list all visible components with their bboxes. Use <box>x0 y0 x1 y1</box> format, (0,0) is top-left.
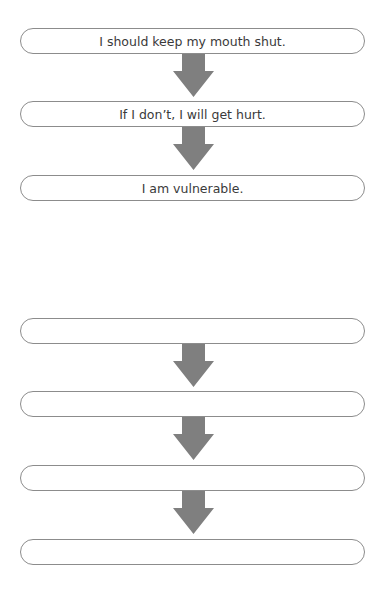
example-box-1: I should keep my mouth shut. <box>20 28 365 54</box>
blank-box-3[interactable] <box>20 465 365 491</box>
down-arrow-icon <box>172 127 215 173</box>
blank-box-4[interactable] <box>20 539 365 565</box>
down-arrow-icon <box>172 344 215 390</box>
example-box-2-text: If I don’t, I will get hurt. <box>119 107 266 122</box>
example-box-3: I am vulnerable. <box>20 175 365 201</box>
blank-box-1[interactable] <box>20 318 365 344</box>
blank-box-2[interactable] <box>20 391 365 417</box>
down-arrow-icon <box>172 54 215 100</box>
example-box-2: If I don’t, I will get hurt. <box>20 101 365 127</box>
example-box-3-text: I am vulnerable. <box>142 181 244 196</box>
down-arrow-icon <box>172 417 215 463</box>
down-arrow-icon <box>172 491 215 537</box>
example-box-1-text: I should keep my mouth shut. <box>99 34 285 49</box>
